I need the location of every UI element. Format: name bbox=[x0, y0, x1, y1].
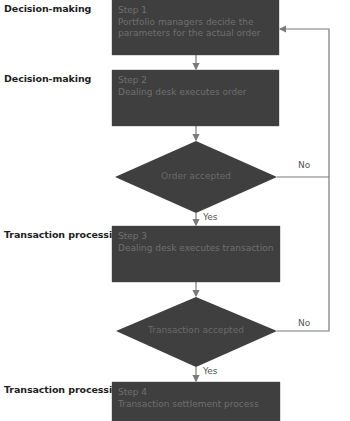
step-4-box: Step 4 Transaction settlement process bbox=[112, 382, 280, 421]
step-3-title: Step 3 bbox=[118, 231, 280, 243]
lane-label-decision-making-1: Decision-making bbox=[4, 3, 91, 14]
step-3-box: Step 3 Dealing desk executes transaction bbox=[112, 226, 280, 282]
decision-transaction-yes-label: Yes bbox=[203, 366, 218, 376]
connector-lines bbox=[0, 0, 350, 421]
step-1-text-line2: parameters for the actual order bbox=[118, 28, 279, 40]
step-4-text: Transaction settlement process bbox=[118, 399, 280, 411]
decision-order-no-label: No bbox=[298, 160, 310, 170]
step-1-text-line1: Portfolio managers decide the bbox=[118, 17, 279, 29]
decision-order-text: Order accepted bbox=[146, 171, 246, 181]
decision-transaction-no-label: No bbox=[298, 318, 310, 328]
lane-label-transaction-processing-2: Transaction processing bbox=[4, 384, 125, 395]
decision-order-yes-label: Yes bbox=[203, 212, 218, 222]
step-3-text: Dealing desk executes transaction bbox=[118, 243, 280, 255]
step-2-box: Step 2 Dealing desk executes order bbox=[112, 70, 279, 126]
step-1-box: Step 1 Portfolio managers decide the par… bbox=[112, 0, 279, 55]
step-1-title: Step 1 bbox=[118, 5, 279, 17]
lane-label-transaction-processing-1: Transaction processing bbox=[4, 229, 125, 240]
decision-transaction-text: Transaction accepted bbox=[136, 325, 256, 335]
step-2-title: Step 2 bbox=[118, 75, 279, 87]
step-4-title: Step 4 bbox=[118, 387, 280, 399]
step-2-text: Dealing desk executes order bbox=[118, 87, 279, 99]
lane-label-decision-making-2: Decision-making bbox=[4, 73, 91, 84]
